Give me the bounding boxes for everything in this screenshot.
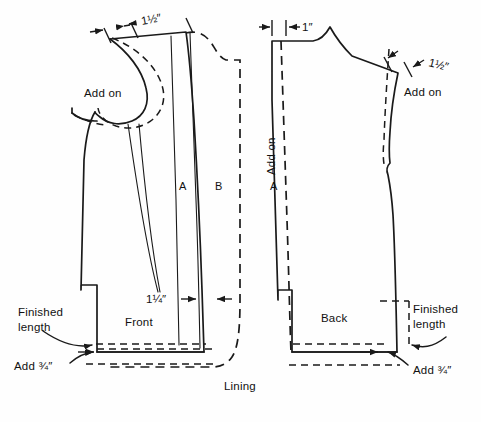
label-add-on-back-right: Add on [404, 86, 442, 98]
label-back-section-a: A [270, 180, 278, 192]
label-add-hem-back: Add ¾″ [413, 364, 452, 376]
front-add-hem-leader [70, 352, 94, 363]
lining-pattern-diagram: 1½″ 1¼″ 1″ 1½″ [0, 0, 481, 422]
label-finished-length-back-line2: length [413, 318, 446, 330]
pattern-drawing: 1½″ 1¼″ 1″ 1½″ [0, 0, 481, 422]
label-front-piece: Front [125, 316, 153, 328]
dim-back-armhole-label: 1½″ [428, 56, 450, 72]
front-hem-lines [86, 344, 216, 364]
label-finished-length-front-line1: Finished [18, 306, 63, 318]
dim-back-shoulder: 1″ [259, 20, 312, 36]
dim-front-shoulder-label: 1½″ [140, 11, 162, 27]
label-front-section-a: A [179, 180, 187, 192]
label-add-on-back-left: Add on [265, 137, 277, 175]
figure-title: Lining [224, 380, 256, 392]
back-add-hem-leader [360, 352, 408, 365]
back-finished-length-leader [412, 337, 446, 347]
front-original-outline-dashed [74, 32, 240, 367]
front-finished-length-leader [43, 331, 92, 346]
dim-front-center-label: 1¼″ [146, 293, 166, 305]
dim-back-armhole: 1½″ [384, 51, 450, 77]
label-finished-length-back-line1: Finished [413, 303, 458, 315]
label-add-hem-front: Add ¾″ [14, 360, 53, 372]
back-new-outline [272, 27, 398, 352]
dim-front-center: 1¼″ [146, 293, 232, 305]
label-back-piece: Back [321, 312, 347, 324]
label-add-on-front-shoulder: Add on [84, 87, 122, 99]
dim-back-shoulder-label: 1″ [302, 21, 312, 33]
label-front-section-b: B [215, 180, 222, 192]
label-finished-length-front-line2: length [18, 321, 51, 333]
dim-front-shoulder: 1½″ [90, 11, 193, 43]
front-dart [128, 124, 160, 292]
